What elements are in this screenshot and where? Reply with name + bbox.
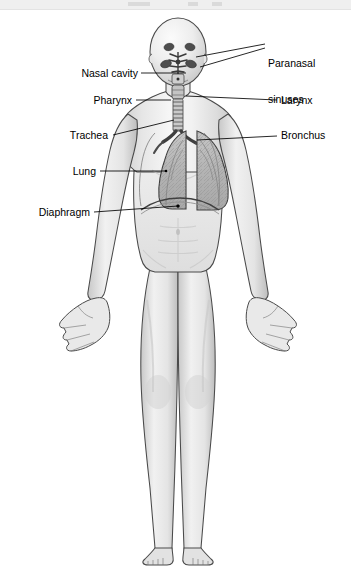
left-hand <box>246 298 296 351</box>
leader-paranasal-maxillary <box>200 48 265 67</box>
label-paranasal-sinuses: Paranasal sinuses <box>268 33 315 129</box>
label-lung: Lung <box>60 165 96 177</box>
label-larynx: Larynx <box>281 94 313 106</box>
right-ear <box>149 54 152 64</box>
label-bronchus: Bronchus <box>281 129 325 141</box>
trachea-structure <box>173 99 183 131</box>
label-paranasal-sinuses-line1: Paranasal <box>268 57 315 69</box>
label-trachea: Trachea <box>54 129 108 141</box>
label-nasal-cavity: Nasal cavity <box>62 67 138 79</box>
navel <box>176 229 180 235</box>
label-diaphragm: Diaphragm <box>22 206 90 218</box>
right-hand <box>60 298 110 351</box>
label-pharynx: Pharynx <box>76 94 132 106</box>
left-arm <box>219 114 269 300</box>
left-leg <box>178 268 215 557</box>
larynx-structure <box>172 85 184 99</box>
respiratory-system-figure: Paranasal sinuses Nasal cavity Pharynx L… <box>0 0 351 583</box>
right-leg <box>141 268 178 557</box>
right-arm <box>88 114 138 300</box>
